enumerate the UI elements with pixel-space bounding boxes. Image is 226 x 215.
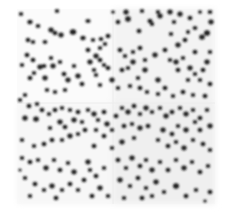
- nucleus: [191, 108, 195, 112]
- nucleus: [138, 112, 142, 116]
- nucleus: [177, 11, 182, 16]
- nucleus: [169, 32, 173, 36]
- nucleus: [92, 144, 97, 148]
- nucleus: [94, 174, 99, 178]
- nucleus: [199, 34, 205, 39]
- nucleus: [137, 29, 142, 33]
- nucleus: [172, 20, 176, 24]
- nucleus: [87, 60, 92, 65]
- nucleus: [20, 138, 24, 142]
- nucleus: [170, 132, 175, 136]
- nucleus: [136, 76, 140, 80]
- nucleus: [201, 68, 206, 72]
- nucleus: [63, 125, 68, 129]
- nucleus: [98, 46, 102, 50]
- nucleus: [66, 161, 70, 165]
- nucleus: [54, 196, 59, 200]
- nucleus: [53, 90, 57, 94]
- nucleus: [208, 10, 213, 14]
- nucleus: [53, 108, 58, 112]
- nucleus: [128, 84, 132, 88]
- nucleus: [57, 120, 62, 125]
- nucleus: [86, 108, 90, 112]
- nucleus: [181, 166, 186, 171]
- nucleus: [70, 29, 76, 35]
- nucleus: [47, 112, 51, 116]
- nucleus: [183, 38, 188, 42]
- nucleus: [104, 122, 109, 127]
- nucleus: [26, 38, 31, 43]
- nucleus: [91, 112, 96, 117]
- nucleus: [191, 93, 195, 97]
- nucleus: [198, 78, 202, 82]
- nucleus: [184, 194, 189, 198]
- nucleus: [142, 68, 147, 73]
- nucleus: [76, 188, 80, 192]
- nucleus: [75, 74, 80, 79]
- nucleus: [85, 19, 90, 23]
- nucleus: [128, 184, 132, 188]
- nucleus: [136, 176, 141, 180]
- nucleus: [67, 134, 72, 139]
- nucleus: [150, 110, 154, 114]
- nucleus: [119, 140, 124, 145]
- nucleus: [129, 156, 134, 161]
- nucleus: [183, 112, 188, 117]
- nucleus: [80, 36, 85, 41]
- nucleus: [205, 108, 209, 112]
- nucleus: [76, 132, 80, 136]
- nucleus: [28, 76, 33, 80]
- nucleus: [50, 138, 55, 142]
- nucleus: [138, 46, 143, 50]
- nucleus: [49, 184, 54, 189]
- nucleus: [98, 58, 103, 62]
- nucleus: [76, 110, 81, 114]
- nucleus: [40, 108, 45, 112]
- nucleus: [155, 78, 160, 83]
- nucleus: [58, 60, 62, 64]
- nucleus: [18, 98, 22, 102]
- nucleus: [190, 160, 194, 164]
- microscopy-image: [0, 0, 226, 215]
- nucleus: [163, 114, 168, 119]
- nucleus: [65, 78, 70, 83]
- nucleus: [20, 63, 24, 67]
- nucleus: [63, 88, 67, 92]
- nucleus: [137, 126, 142, 131]
- nucleus: [60, 188, 64, 192]
- nucleus: [208, 20, 213, 25]
- nucleus: [102, 63, 106, 67]
- nucleus: [110, 146, 114, 150]
- nucleus: [43, 40, 48, 44]
- nucleus: [71, 170, 76, 175]
- nucleus: [122, 196, 126, 200]
- nucleus: [145, 90, 149, 94]
- nucleus: [23, 176, 27, 180]
- nucleus: [32, 144, 36, 148]
- nucleus: [163, 86, 168, 90]
- nucleus: [122, 124, 127, 128]
- nucleus: [91, 38, 95, 42]
- nucleus: [173, 60, 178, 65]
- nucleus: [208, 148, 212, 152]
- nucleus: [31, 58, 36, 62]
- nucleus: [110, 128, 114, 132]
- nucleus: [153, 180, 158, 185]
- nucleus: [27, 20, 32, 25]
- nucleus: [193, 50, 198, 54]
- nucleus: [52, 158, 56, 162]
- nucleus: [193, 72, 197, 76]
- nucleus: [20, 156, 24, 160]
- nucleus: [198, 116, 203, 120]
- nucleus: [102, 166, 106, 170]
- nucleus: [181, 90, 186, 94]
- nucleus: [204, 30, 210, 36]
- nucleus: [43, 166, 48, 171]
- nucleus: [106, 66, 111, 70]
- nucleus: [58, 33, 63, 38]
- nucleus: [102, 110, 107, 114]
- nucleus: [208, 82, 213, 86]
- nucleus: [62, 72, 67, 76]
- nucleus: [120, 68, 125, 72]
- nucleus: [138, 164, 143, 168]
